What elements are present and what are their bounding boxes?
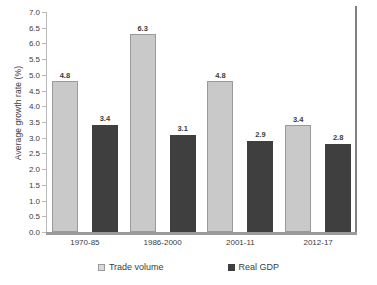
bar-group: 4.83.4 bbox=[52, 12, 118, 232]
bar-value-label: 4.8 bbox=[60, 71, 70, 80]
legend-label: Trade volume bbox=[109, 262, 164, 272]
chart-legend: Trade volumeReal GDP bbox=[0, 262, 377, 272]
bar-value-label: 3.4 bbox=[100, 114, 110, 123]
bar[interactable]: 3.4 bbox=[285, 125, 311, 232]
x-category-label: 1986-2000 bbox=[143, 238, 181, 247]
bar-value-label: 6.3 bbox=[137, 24, 147, 33]
bar-value-label: 2.9 bbox=[255, 130, 265, 139]
x-axis-line bbox=[46, 232, 357, 235]
bar-chart: Average growth rate (%) 0.00.51.01.52.02… bbox=[0, 0, 377, 285]
y-tick-label: 5.0 bbox=[29, 70, 40, 79]
y-tick-label: 1.0 bbox=[29, 196, 40, 205]
y-tick-label: 6.5 bbox=[29, 23, 40, 32]
y-tick-label: 7.0 bbox=[29, 8, 40, 17]
bar[interactable]: 3.1 bbox=[170, 135, 196, 232]
bar[interactable]: 3.4 bbox=[92, 125, 118, 232]
x-category-label: 1970-85 bbox=[70, 238, 99, 247]
bar-value-label: 2.8 bbox=[333, 133, 343, 142]
y-tick-label: 3.0 bbox=[29, 133, 40, 142]
bar-value-label: 3.4 bbox=[293, 115, 303, 124]
bar-group: 4.82.9 bbox=[207, 12, 273, 232]
legend-label: Real GDP bbox=[239, 262, 280, 272]
bar-series-container: 4.83.46.33.14.82.93.42.8 bbox=[46, 12, 357, 232]
bar[interactable]: 4.8 bbox=[207, 81, 233, 232]
y-tick-label: 2.5 bbox=[29, 149, 40, 158]
bar[interactable]: 6.3 bbox=[130, 34, 156, 232]
bar[interactable]: 2.9 bbox=[247, 141, 273, 232]
y-tick-label: 1.5 bbox=[29, 180, 40, 189]
y-tick-label: 0.0 bbox=[29, 228, 40, 237]
bar[interactable]: 4.8 bbox=[52, 81, 78, 232]
y-tick-label: 3.5 bbox=[29, 118, 40, 127]
y-tick-label: 2.0 bbox=[29, 165, 40, 174]
x-category-label: 2012-17 bbox=[303, 238, 332, 247]
bar-value-label: 4.8 bbox=[215, 71, 225, 80]
bar[interactable]: 2.8 bbox=[325, 144, 351, 232]
bar-group: 6.33.1 bbox=[130, 12, 196, 232]
y-tick-label: 4.0 bbox=[29, 102, 40, 111]
bar-value-label: 3.1 bbox=[177, 124, 187, 133]
bar-group: 3.42.8 bbox=[285, 12, 351, 232]
y-tick-label: 5.5 bbox=[29, 55, 40, 64]
legend-swatch-real-gdp bbox=[228, 264, 235, 271]
y-tick-label: 6.0 bbox=[29, 39, 40, 48]
legend-swatch-trade-volume bbox=[98, 264, 105, 271]
legend-item[interactable]: Trade volume bbox=[98, 262, 164, 272]
legend-item[interactable]: Real GDP bbox=[228, 262, 280, 272]
x-category-label: 2001-11 bbox=[226, 238, 255, 247]
y-tick-label: 4.5 bbox=[29, 86, 40, 95]
y-axis-title: Average growth rate (%) bbox=[13, 33, 23, 193]
y-tick bbox=[42, 232, 46, 233]
plot-area: 0.00.51.01.52.02.53.03.54.04.55.05.56.06… bbox=[46, 12, 357, 232]
y-tick-label: 0.5 bbox=[29, 212, 40, 221]
